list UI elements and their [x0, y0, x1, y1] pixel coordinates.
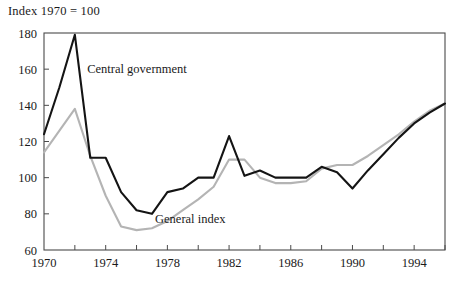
x-axis-labels: 1970197419781982198619901994: [32, 256, 428, 270]
series-annotation-general-index: General index: [155, 212, 226, 226]
x-tick-label-1982: 1982: [217, 256, 242, 270]
y-tick-label-120: 120: [18, 135, 37, 149]
chart-figure: Index 1970 = 100 6080100120140160180 197…: [0, 0, 456, 289]
x-tick-label-1994: 1994: [402, 256, 428, 270]
series-annotation-central-government: Central government: [87, 62, 187, 76]
series-line-general-index: [44, 104, 445, 231]
x-tick-label-1974: 1974: [93, 256, 119, 270]
y-tick-label-80: 80: [25, 207, 38, 221]
y-axis-ticks: [44, 69, 49, 214]
y-tick-label-180: 180: [18, 27, 37, 41]
y-tick-label-160: 160: [18, 63, 37, 77]
line-chart-canvas: 6080100120140160180 19701974197819821986…: [0, 0, 456, 289]
y-tick-label-100: 100: [18, 171, 37, 185]
y-axis-labels: 6080100120140160180: [18, 27, 37, 258]
x-tick-label-1990: 1990: [340, 256, 365, 270]
x-tick-label-1978: 1978: [155, 256, 180, 270]
x-axis-ticks: [75, 245, 445, 250]
x-tick-label-1970: 1970: [32, 256, 57, 270]
y-tick-label-140: 140: [18, 99, 37, 113]
x-tick-label-1986: 1986: [278, 256, 303, 270]
